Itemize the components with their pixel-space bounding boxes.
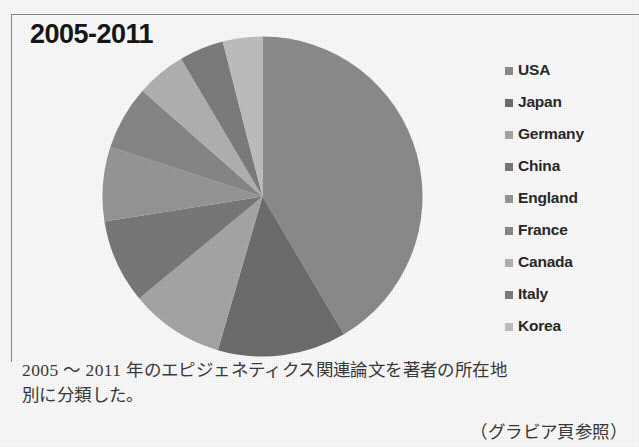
- legend-swatch-icon: [505, 291, 513, 299]
- legend-item-germany[interactable]: Germany: [505, 118, 630, 150]
- legend-item-label: Japan: [518, 93, 562, 111]
- legend-swatch-icon: [505, 195, 513, 203]
- legend-swatch-icon: [505, 131, 513, 139]
- legend-item-korea[interactable]: Korea: [505, 310, 630, 342]
- pie-chart: [102, 36, 423, 357]
- legend-item-france[interactable]: France: [505, 214, 630, 246]
- pie-chart-svg: [102, 36, 423, 357]
- legend-swatch-icon: [505, 259, 513, 267]
- legend-item-label: China: [518, 157, 560, 175]
- legend-item-england[interactable]: England: [505, 182, 630, 214]
- pie-slice-group: [103, 37, 423, 357]
- legend-item-label: Canada: [518, 253, 573, 271]
- figure-source-note: （グラビア頁参照）: [22, 418, 627, 443]
- caption-line-2: 別に分類した。: [22, 383, 622, 408]
- legend-item-italy[interactable]: Italy: [505, 278, 630, 310]
- figure-caption: 2005 ～ 2011 年のエピジェネティクス関連論文を著者の所在地 別に分類し…: [22, 358, 622, 409]
- legend-item-label: England: [518, 189, 578, 207]
- legend-swatch-icon: [505, 323, 513, 331]
- legend-item-canada[interactable]: Canada: [505, 246, 630, 278]
- figure-frame-left-border: [11, 14, 12, 362]
- legend-swatch-icon: [505, 163, 513, 171]
- legend-item-label: Germany: [518, 125, 584, 143]
- legend-item-label: Korea: [518, 317, 561, 335]
- legend-item-label: USA: [518, 61, 550, 79]
- legend-swatch-icon: [505, 227, 513, 235]
- legend-swatch-icon: [505, 67, 513, 75]
- legend-item-label: France: [518, 221, 568, 239]
- legend-item-usa[interactable]: USA: [505, 54, 630, 86]
- legend-item-china[interactable]: China: [505, 150, 630, 182]
- legend-item-japan[interactable]: Japan: [505, 86, 630, 118]
- chart-legend: USAJapanGermanyChinaEnglandFranceCanadaI…: [505, 54, 630, 342]
- legend-swatch-icon: [505, 99, 513, 107]
- legend-item-label: Italy: [518, 285, 548, 303]
- figure-frame-top-border: [11, 14, 639, 15]
- caption-line-1: 2005 ～ 2011 年のエピジェネティクス関連論文を著者の所在地: [22, 360, 507, 380]
